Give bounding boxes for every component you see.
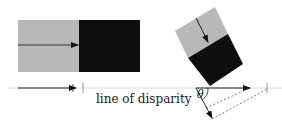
line-of-disparity-label: line of disparity: [96, 92, 192, 106]
theta-label: θ: [197, 88, 204, 101]
rotated-edge-figure: [175, 7, 243, 86]
left-black-half: [79, 20, 140, 72]
left-edge-figure: [18, 20, 140, 72]
left-disparity-arrow: [18, 82, 83, 93]
left-gray-half: [18, 20, 79, 72]
diagram-canvas: [0, 0, 282, 127]
